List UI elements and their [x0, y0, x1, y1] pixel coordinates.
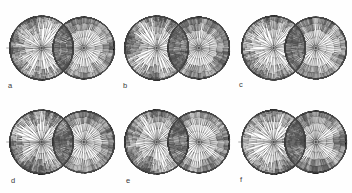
right-lobe [168, 17, 229, 78]
tree-graph-panel-d [4, 97, 118, 187]
tree-graph-panel-b [119, 3, 233, 93]
radial-tree-drawing [4, 97, 118, 187]
tree-graph-panel-c [236, 3, 350, 93]
radial-tree-drawing [236, 3, 350, 93]
radial-tree-drawing [119, 3, 233, 93]
panel-label-d: d [11, 177, 15, 185]
tree-graph-panel-f [236, 97, 350, 187]
right-lobe [168, 111, 229, 172]
radial-tree-drawing [236, 97, 350, 187]
figure-canvas: abcdef [0, 0, 352, 193]
panel-label-b: b [123, 82, 127, 90]
panel-label-f: f [240, 176, 242, 184]
panel-label-c: c [239, 81, 243, 89]
panel-label-a: a [8, 82, 12, 90]
tree-graph-panel-a [4, 3, 118, 93]
tree-graph-panel-e [119, 97, 233, 187]
radial-tree-drawing [4, 3, 118, 93]
radial-tree-drawing [119, 97, 233, 187]
panel-label-e: e [126, 177, 130, 185]
